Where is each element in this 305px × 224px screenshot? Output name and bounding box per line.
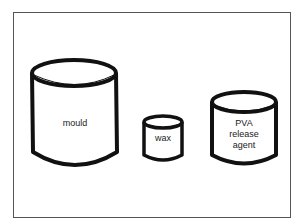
wax-label: wax	[146, 133, 180, 144]
diagram-canvas	[0, 0, 305, 224]
mould-container-icon	[32, 60, 117, 165]
pva-label: PVA release agent	[216, 118, 272, 151]
mould-label: mould	[49, 118, 101, 129]
